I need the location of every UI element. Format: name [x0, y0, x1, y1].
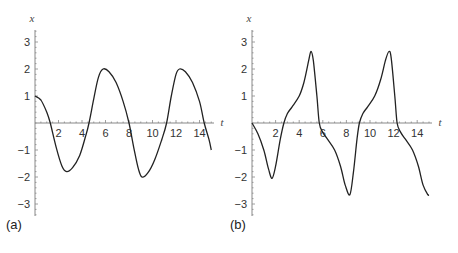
x-tick-label: 4: [79, 127, 85, 139]
x-tick-label: 4: [296, 127, 302, 139]
y-axis-label: x: [246, 12, 252, 24]
y-tick-label: 1: [24, 90, 30, 102]
x-axis-label: t: [220, 116, 224, 128]
y-tick-label: 2: [241, 63, 247, 75]
x-tick-label: 8: [343, 127, 349, 139]
x-tick-label: 14: [411, 127, 423, 139]
x-tick-label: 2: [273, 127, 279, 139]
x-axis-label: t: [438, 116, 442, 128]
y-tick-label: −3: [17, 198, 30, 210]
x-tick-label: 10: [364, 127, 376, 139]
y-tick-label: 2: [24, 63, 30, 75]
y-tick-label: 3: [24, 36, 30, 48]
y-tick-label: −3: [234, 198, 247, 210]
x-tick-label: 14: [193, 127, 205, 139]
x-tick-label: 12: [387, 127, 399, 139]
panel-label: (a): [6, 217, 22, 232]
x-tick-label: 12: [170, 127, 182, 139]
y-axis-label: x: [29, 12, 35, 24]
x-tick-label: 2: [55, 127, 61, 139]
panel-label: (b): [230, 217, 246, 232]
y-tick-label: −1: [234, 144, 247, 156]
figure: 2468101214−3−2−1123xt(a)2468101214−3−2−1…: [0, 0, 458, 253]
y-tick-label: −1: [17, 144, 30, 156]
y-tick-label: −2: [234, 171, 247, 183]
chart-panel-b: 2468101214−3−2−1123xt(b): [230, 12, 442, 232]
x-tick-label: 10: [146, 127, 158, 139]
y-tick-label: 3: [241, 36, 247, 48]
x-tick-label: 6: [102, 127, 108, 139]
y-tick-label: −2: [17, 171, 30, 183]
y-tick-label: 1: [241, 90, 247, 102]
chart-panel-a: 2468101214−3−2−1123xt(a): [6, 12, 224, 232]
